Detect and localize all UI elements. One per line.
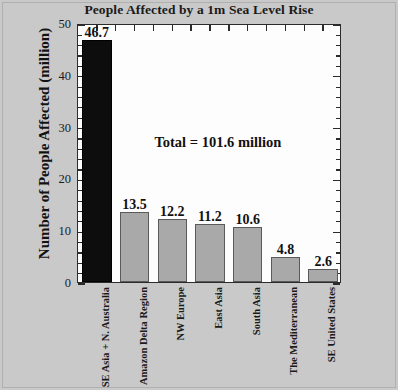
- bar: [308, 269, 337, 282]
- bar-value-label: 46.7: [82, 25, 111, 41]
- y-tick-major-right: [333, 76, 340, 77]
- y-tick-label: 10: [37, 224, 71, 239]
- bar-value-label: 4.8: [271, 242, 300, 258]
- x-tick-top: [247, 25, 248, 31]
- x-category-label: East Asia: [213, 287, 224, 329]
- y-tick-label: 50: [37, 17, 71, 32]
- y-tick-minor-right: [336, 190, 340, 191]
- y-tick-major-right: [333, 283, 340, 284]
- x-tick-top-boundary: [115, 25, 116, 31]
- x-tick-top: [172, 25, 173, 31]
- y-tick-minor-right: [336, 149, 340, 150]
- x-category-label: NW Europe: [175, 287, 186, 341]
- x-tick-top-boundary: [304, 25, 305, 31]
- y-tick-minor-right: [336, 45, 340, 46]
- y-tick-label: 40: [37, 68, 71, 83]
- y-tick-minor-right: [336, 159, 340, 160]
- x-tick-top: [134, 25, 135, 31]
- y-tick-minor-right: [336, 66, 340, 67]
- bar: [120, 212, 149, 282]
- x-tick-top: [209, 25, 210, 31]
- y-tick-major: [78, 283, 85, 284]
- bar: [158, 219, 187, 282]
- y-tick-minor-right: [336, 118, 340, 119]
- total-annotation: Total = 101.6 million: [154, 133, 281, 150]
- x-tick-top-boundary: [153, 25, 154, 31]
- y-tick-minor-right: [336, 107, 340, 108]
- y-tick-label: 0: [37, 276, 71, 291]
- y-tick-major-right: [333, 24, 340, 25]
- bar: [195, 224, 224, 282]
- x-tick-top-boundary: [266, 25, 267, 31]
- bar-value-label: 12.2: [158, 204, 187, 220]
- y-tick-minor-right: [336, 221, 340, 222]
- y-tick-minor-right: [336, 138, 340, 139]
- x-tick-top-boundary: [190, 25, 191, 31]
- y-tick-minor-right: [336, 242, 340, 243]
- bar: [233, 227, 262, 282]
- plot-area: 46.713.512.211.210.64.82.6 Total = 101.6…: [77, 24, 341, 283]
- y-tick-label: 30: [37, 120, 71, 135]
- x-tick-top: [322, 25, 323, 31]
- bar: [82, 40, 111, 282]
- x-tick-top: [285, 25, 286, 31]
- x-tick-top-boundary: [228, 25, 229, 31]
- bar: [271, 257, 300, 282]
- chart-canvas: People Affected by a 1m Sea Level Rise N…: [0, 0, 398, 390]
- bar-value-label: 13.5: [120, 197, 149, 213]
- bar-value-label: 11.2: [195, 209, 224, 225]
- y-tick-minor-right: [336, 87, 340, 88]
- y-tick-major-right: [333, 180, 340, 181]
- y-tick-minor-right: [336, 97, 340, 98]
- y-tick-minor-right: [336, 35, 340, 36]
- y-tick-major-right: [333, 128, 340, 129]
- y-tick-minor-right: [336, 211, 340, 212]
- bar-value-label: 2.6: [308, 254, 337, 270]
- y-tick-minor-right: [336, 169, 340, 170]
- y-tick-major-right: [333, 232, 340, 233]
- x-category-label: SE United States: [326, 287, 337, 362]
- y-tick-minor-right: [336, 55, 340, 56]
- x-category-label: The Mediterranean: [288, 287, 299, 375]
- bar-value-label: 10.6: [233, 212, 262, 228]
- x-category-label: Amazon Delta Region: [138, 287, 149, 385]
- x-category-label: SE Asia + N. Australia: [100, 287, 111, 387]
- y-tick-label: 20: [37, 172, 71, 187]
- x-category-label: South Asia: [251, 287, 262, 335]
- y-tick-minor-right: [336, 201, 340, 202]
